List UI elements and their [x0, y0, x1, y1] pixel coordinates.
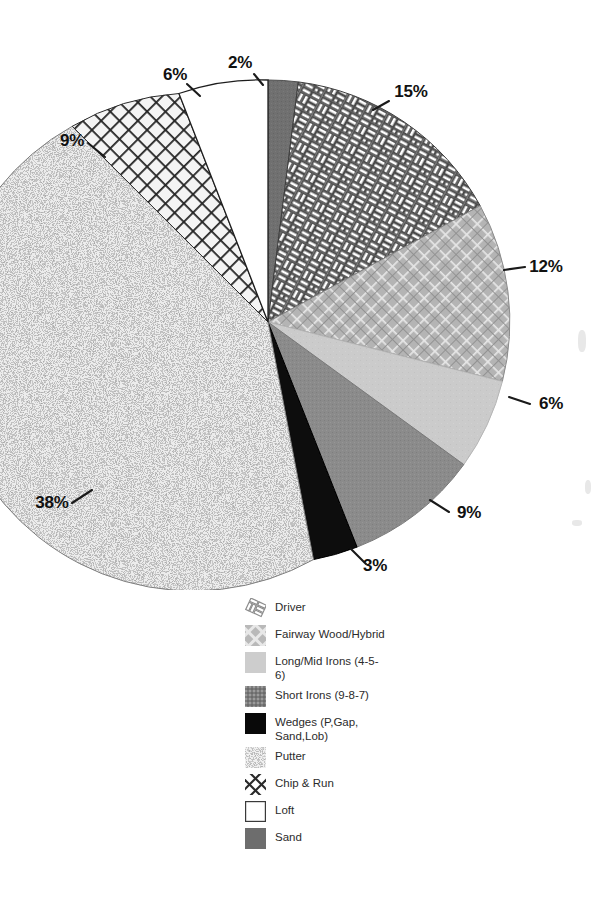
legend-label-sand: Sand: [275, 828, 302, 845]
legend-swatch-short-irons-grid-icon: [245, 686, 266, 707]
percent-label-driver: 15%: [394, 82, 428, 101]
legend-item-chip-and-run[interactable]: Chip & Run: [245, 774, 545, 795]
legend-label-driver: Driver: [275, 598, 306, 615]
legend-label-chip-and-run: Chip & Run: [275, 774, 334, 791]
legend-item-driver[interactable]: Driver: [245, 598, 545, 619]
pie-chart-page: 2% 6% 15% 9% 12% 6% 38% 9% 3%: [0, 0, 604, 899]
legend-label-wedges: Wedges (P,Gap, Sand,Lob): [275, 713, 358, 743]
leader-line-shortirons: [430, 500, 449, 512]
legend-item-long-mid-irons[interactable]: Long/Mid Irons (4-5- 6): [245, 652, 545, 682]
legend-item-sand[interactable]: Sand: [245, 828, 545, 849]
leader-line-longmid: [509, 397, 530, 404]
percent-label-fairway: 12%: [529, 257, 563, 276]
legend-label-long-mid-irons: Long/Mid Irons (4-5- 6): [275, 652, 379, 682]
legend-label-fairway-wood: Fairway Wood/Hybrid: [275, 625, 385, 642]
legend-item-loft[interactable]: Loft: [245, 801, 545, 822]
scan-artifact-lower: [585, 480, 591, 494]
legend-label-putter: Putter: [275, 747, 306, 764]
legend-swatch-loft-white-icon: [245, 801, 266, 822]
percent-label-chip-run: 9%: [60, 131, 84, 150]
legend-swatch-wedges-black-icon: [245, 713, 266, 734]
percent-label-wedges: 3%: [363, 556, 387, 575]
scan-artifact-bottom: [572, 520, 582, 526]
legend-swatch-long-mid-irons-icon: [245, 652, 266, 673]
leader-line-fairway: [504, 267, 525, 270]
pie-chart-svg: 2% 6% 15% 9% 12% 6% 38% 9% 3%: [0, 0, 604, 590]
percent-label-putter: 38%: [35, 493, 69, 512]
legend-swatch-fairway-diamond-icon: [245, 625, 266, 646]
percent-label-short-irons: 9%: [457, 503, 481, 522]
pie-slices-group: [0, 80, 510, 590]
legend-item-wedges[interactable]: Wedges (P,Gap, Sand,Lob): [245, 713, 545, 743]
legend-swatch-sand-dark-gray-icon: [245, 828, 266, 849]
legend-item-putter[interactable]: Putter: [245, 747, 545, 768]
legend-swatch-chip-run-x-lattice-icon: [245, 774, 266, 795]
percent-label-loft: 6%: [163, 65, 187, 84]
percent-label-long-mid: 6%: [539, 394, 563, 413]
percent-label-sand: 2%: [228, 53, 252, 72]
pie-chart-figure: 2% 6% 15% 9% 12% 6% 38% 9% 3%: [0, 0, 604, 590]
legend-label-loft: Loft: [275, 801, 294, 818]
chart-legend: Driver Fairway Wood/Hybrid Long/Mid Iron…: [245, 598, 545, 855]
legend-swatch-putter-speckle-icon: [245, 747, 266, 768]
legend-label-short-irons: Short Irons (9-8-7): [275, 686, 369, 703]
legend-item-fairway-wood[interactable]: Fairway Wood/Hybrid: [245, 625, 545, 646]
legend-swatch-driver-woven-icon: [245, 598, 266, 619]
legend-item-short-irons[interactable]: Short Irons (9-8-7): [245, 686, 545, 707]
scan-artifact-upper: [578, 330, 586, 352]
